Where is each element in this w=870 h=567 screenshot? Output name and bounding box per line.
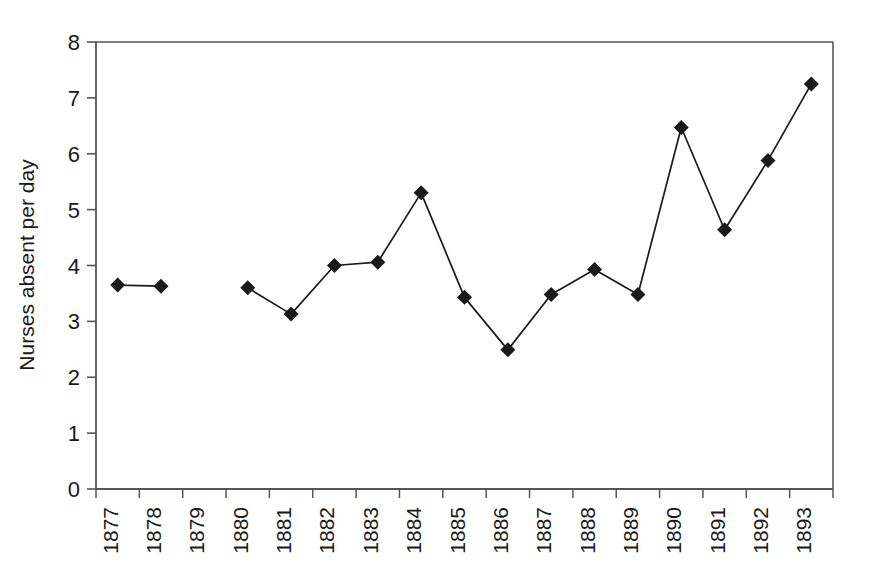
x-tick-label: 1890 bbox=[662, 507, 685, 554]
x-tick-label: 1889 bbox=[619, 507, 642, 554]
y-tick-label: 3 bbox=[68, 309, 80, 334]
line-segment bbox=[725, 160, 768, 229]
y-axis-ticks: 012345678 bbox=[68, 30, 96, 502]
y-tick-label: 1 bbox=[68, 421, 80, 446]
y-tick-label: 5 bbox=[68, 198, 80, 223]
x-tick-label: 1881 bbox=[272, 507, 295, 554]
x-tick-label: 1888 bbox=[576, 507, 599, 554]
data-markers bbox=[110, 76, 819, 357]
line-segment bbox=[378, 193, 421, 262]
x-tick-label: 1891 bbox=[706, 507, 729, 554]
x-tick-label: 1887 bbox=[532, 507, 555, 554]
line-segment bbox=[638, 127, 681, 294]
line-segment bbox=[465, 297, 508, 350]
y-tick-label: 0 bbox=[68, 477, 80, 502]
x-tick-label: 1883 bbox=[359, 507, 382, 554]
data-point-marker bbox=[544, 287, 559, 302]
line-segment bbox=[551, 269, 594, 294]
line-segment bbox=[421, 193, 464, 297]
line-segment bbox=[508, 295, 551, 350]
data-point-marker bbox=[154, 279, 169, 294]
data-point-marker bbox=[414, 185, 429, 200]
y-tick-label: 4 bbox=[68, 254, 80, 279]
line-segment bbox=[768, 84, 811, 161]
data-point-marker bbox=[110, 278, 125, 293]
x-tick-label: 1893 bbox=[792, 507, 815, 554]
data-point-marker bbox=[587, 262, 602, 277]
data-point-marker bbox=[674, 120, 689, 135]
x-tick-label: 1882 bbox=[315, 507, 338, 554]
x-tick-label: 1877 bbox=[99, 507, 122, 554]
data-line bbox=[118, 84, 812, 350]
line-segment bbox=[248, 288, 291, 314]
data-point-marker bbox=[370, 255, 385, 270]
x-tick-label: 1878 bbox=[142, 507, 165, 554]
y-tick-label: 6 bbox=[68, 142, 80, 167]
line-segment bbox=[681, 127, 724, 229]
chart-canvas: 012345678 187718781879188018811882188318… bbox=[0, 0, 870, 567]
x-tick-label: 1879 bbox=[185, 507, 208, 554]
data-point-marker bbox=[630, 287, 645, 302]
x-tick-label: 1885 bbox=[446, 507, 469, 554]
line-segment bbox=[595, 269, 638, 294]
y-axis-title: Nurses absent per day bbox=[15, 159, 38, 371]
line-segment bbox=[291, 266, 334, 315]
line-chart: 012345678 187718781879188018811882188318… bbox=[0, 0, 870, 567]
y-tick-label: 8 bbox=[68, 30, 80, 55]
data-point-marker bbox=[804, 76, 819, 91]
y-tick-label: 7 bbox=[68, 86, 80, 111]
y-tick-label: 2 bbox=[68, 365, 80, 390]
x-tick-label: 1892 bbox=[749, 507, 772, 554]
x-tick-label: 1884 bbox=[402, 507, 425, 554]
x-axis-ticks: 1877187818791880188118821883188418851886… bbox=[96, 489, 833, 554]
x-tick-label: 1880 bbox=[229, 507, 252, 554]
plot-frame bbox=[96, 42, 833, 489]
data-point-marker bbox=[717, 222, 732, 237]
data-point-marker bbox=[760, 153, 775, 168]
data-point-marker bbox=[240, 280, 255, 295]
x-tick-label: 1886 bbox=[489, 507, 512, 554]
